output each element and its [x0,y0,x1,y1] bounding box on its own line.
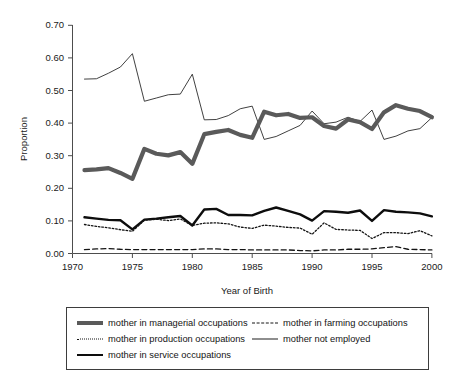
dashed-line-icon [252,318,278,328]
x-axis-title: Year of Birth [221,285,273,296]
y-tick-label-0: 0.00 [46,248,65,259]
plot-area: 0.00 0.10 0.20 0.30 0.40 0.50 0.60 0.70 … [0,0,459,300]
y-tick-label-1: 0.10 [46,215,65,226]
x-tick-label-1980: 1980 [182,261,203,272]
chart-figure: 0.00 0.10 0.20 0.30 0.40 0.50 0.60 0.70 … [0,0,459,385]
y-tick-label-2: 0.20 [46,182,65,193]
legend-item-not-employed[interactable]: mother not employed [252,334,422,345]
x-tick-label-1975: 1975 [122,261,143,272]
series-line-mother-in-farming-occupations [84,247,431,251]
thin-line-icon [252,334,278,344]
series-line-mother-in-production-occupations [84,219,431,239]
x-tick-label-1990: 1990 [302,261,323,272]
legend-label-service: mother in service occupations [108,350,231,361]
thick-black-line-icon [77,350,103,360]
y-tick-label-3: 0.30 [46,150,65,161]
thick-gray-line-icon [77,318,103,328]
chart-legend: mother in managerial occupations mother … [66,307,429,370]
legend-item-farming[interactable]: mother in farming occupations [252,318,422,329]
x-tick-label-1985: 1985 [242,261,263,272]
series-line-mother-in-service-occupations [84,208,431,230]
series-group [84,54,431,251]
y-tick-label-4: 0.40 [46,117,65,128]
series-line-mother-in-managerial-occupations [84,105,431,179]
legend-label-not-employed: mother not employed [283,334,370,345]
legend-item-production[interactable]: mother in production occupations [77,334,252,345]
legend-label-farming: mother in farming occupations [283,318,408,329]
line-chart-svg: 0.00 0.10 0.20 0.30 0.40 0.50 0.60 0.70 … [0,0,459,300]
y-tick-label-7: 0.70 [46,19,65,30]
x-tick-label-1970: 1970 [62,261,83,272]
x-tick-label-2000: 2000 [421,261,442,272]
x-axis-ticks [73,254,432,259]
x-tick-label-1995: 1995 [361,261,382,272]
legend-item-service[interactable]: mother in service occupations [77,350,252,361]
y-tick-label-6: 0.60 [46,52,65,63]
legend-label-production: mother in production occupations [108,334,245,345]
legend-grid: mother in managerial occupations mother … [77,315,422,363]
y-axis-title: Proportion [18,117,29,161]
y-tick-label-5: 0.50 [46,85,65,96]
y-axis-ticks [68,25,73,253]
dotted-line-icon [77,334,103,344]
legend-label-managerial: mother in managerial occupations [108,318,248,329]
legend-item-managerial[interactable]: mother in managerial occupations [77,318,252,329]
